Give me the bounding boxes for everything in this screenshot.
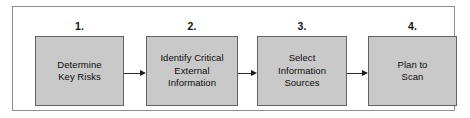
step-box-4: Plan to Scan [368, 36, 457, 106]
arrow-step-1-to-2-icon [124, 70, 146, 77]
diagram-frame: 1. 2. 3. 4. Determine Key Risks Identify… [12, 6, 455, 111]
arrow-step-3-to-4-icon [347, 70, 368, 77]
step-number-1: 1. [35, 20, 124, 33]
arrow-step-2-to-3-icon [238, 70, 257, 77]
step-box-3: Select Information Sources [257, 36, 347, 106]
process-flow-diagram: 1. 2. 3. 4. Determine Key Risks Identify… [0, 0, 470, 118]
step-number-2: 2. [146, 20, 238, 33]
step-number-3: 3. [257, 20, 347, 33]
step-box-2: Identify Critical External Information [146, 36, 238, 106]
arrow-head [140, 70, 146, 76]
arrow-shaft [124, 73, 140, 74]
step-box-4-label: Plan to Scan [398, 59, 428, 84]
step-number-4: 4. [368, 20, 457, 33]
step-box-1: Determine Key Risks [35, 36, 124, 106]
step-box-3-label: Select Information Sources [278, 52, 326, 90]
arrow-head [362, 70, 368, 76]
arrow-shaft [238, 73, 251, 74]
step-box-1-label: Determine Key Risks [57, 59, 101, 84]
arrow-head [251, 70, 257, 76]
arrow-shaft [347, 73, 362, 74]
step-box-2-label: Identify Critical External Information [160, 52, 223, 90]
